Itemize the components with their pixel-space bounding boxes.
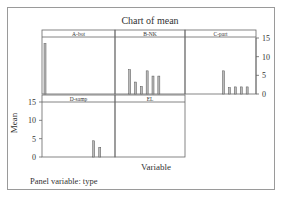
y-tick-label: 5: [32, 135, 36, 144]
panel-d-samp: [42, 95, 115, 157]
bar: [44, 44, 46, 94]
bar: [158, 76, 160, 94]
chart: Chart of mean Mean Variable Panel variab…: [0, 0, 283, 198]
panel-label: D-samp: [70, 96, 88, 102]
bar: [99, 147, 101, 157]
bar: [234, 87, 236, 94]
panel-b-nk: [115, 30, 185, 94]
y-tick-label: 5: [262, 71, 266, 80]
panel-c-part: [185, 30, 256, 94]
bar: [228, 88, 230, 94]
bar: [246, 87, 248, 94]
panel-label: C-part: [213, 31, 228, 37]
panel-el: [115, 95, 185, 157]
y-tick-label: 15: [262, 34, 270, 43]
y-tick-label: 0: [32, 153, 36, 162]
bar: [129, 70, 131, 94]
bar: [146, 71, 148, 94]
y-axis-label: Mean: [9, 112, 19, 133]
bar: [135, 82, 137, 94]
y-tick-label: 10: [28, 116, 36, 125]
chart-title: Chart of mean: [121, 15, 178, 26]
bar: [93, 141, 95, 157]
panel-label: A-bot: [72, 31, 85, 37]
bar: [223, 71, 225, 94]
panel-label: EL: [147, 96, 154, 102]
panel-variable-note: Panel variable: type: [30, 176, 98, 186]
panel-label: B-NK: [143, 31, 156, 37]
x-axis-label: Variable: [141, 162, 171, 172]
bar: [152, 76, 154, 94]
y-tick-label: 0: [262, 90, 266, 99]
y-tick-label: 10: [262, 53, 270, 62]
bar: [240, 87, 242, 94]
bar: [140, 87, 142, 94]
y-tick-label: 15: [28, 98, 36, 107]
panel-a-bot: [42, 30, 115, 94]
